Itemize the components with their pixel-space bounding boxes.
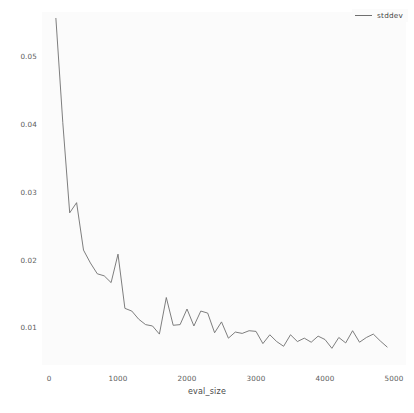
x-tick-label: 3000: [247, 374, 266, 383]
x-tick-label: 1000: [109, 374, 128, 383]
chart-figure: 0.010.020.030.040.05 0100020003000400050…: [0, 0, 414, 413]
line-chart-canvas: [0, 0, 414, 413]
y-tick-label: 0.02: [20, 256, 37, 265]
series-line-stddev: [56, 18, 387, 348]
legend-label-stddev: stddev: [377, 11, 403, 20]
x-tick-label: 0: [47, 374, 52, 383]
x-tick-label: 5000: [385, 374, 404, 383]
x-tick-label: 2000: [178, 374, 197, 383]
x-tick-label: 4000: [316, 374, 335, 383]
legend-line-swatch: [355, 15, 372, 16]
x-axis-label: eval_size: [0, 387, 414, 396]
y-tick-label: 0.04: [20, 120, 37, 129]
y-tick-label: 0.03: [20, 188, 37, 197]
y-tick-label: 0.05: [20, 52, 37, 61]
y-axis-tick-labels: 0.010.020.030.040.05: [0, 0, 37, 413]
y-tick-label: 0.01: [20, 323, 37, 332]
chart-legend[interactable]: stddev: [352, 9, 408, 22]
